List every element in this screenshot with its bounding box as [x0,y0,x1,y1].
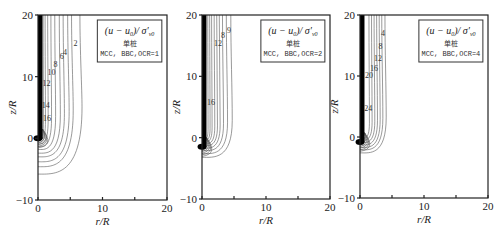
y-tick-label: 0 [192,132,198,144]
legend-line1: 单桩 [123,39,137,48]
y-axis-title: z/R [170,100,182,115]
y-tick-label: 20 [186,9,198,21]
contour-label: 12 [214,39,222,48]
legend-line1: 单桩 [444,39,458,48]
y-tick-label: 10 [186,70,198,82]
x-tick-label: 0 [199,201,205,213]
y-axis-title: z/R [6,100,18,115]
y-tick-label: −10 [338,192,356,204]
y-tick-label: −10 [180,193,198,205]
legend-box: (u − u0)/ σ′v0单桩MCC, BBC,OCR=4 [419,20,483,62]
x-tick-label: 20 [325,201,337,213]
contour-figure: 01020−1001020r/Rz/R246810121416(u − u0)/… [0,0,498,234]
legend-line1: 单桩 [286,39,300,48]
contour-label: 6 [60,52,64,61]
y-tick-label: 0 [28,132,34,144]
contour-label: 14 [42,101,50,110]
legend-formula: (u − u0)/ σ′v0 [268,25,317,37]
x-tick-label: 10 [261,201,273,213]
pile-shape [360,15,364,142]
contour-label: 4 [381,29,385,38]
x-axis-title: r/R [259,214,273,226]
x-tick-label: 10 [419,200,431,212]
y-tick-label: 20 [22,9,34,21]
contour-lines [202,15,232,157]
legend-formula: (u − u0)/ σ′v0 [105,25,154,37]
x-tick-label: 0 [35,202,41,214]
contour-label: 20 [365,71,373,80]
legend-line2: MCC, BBC,OCR=2 [263,50,322,58]
y-tick-label: 20 [344,9,356,21]
y-tick-label: 10 [22,71,34,83]
contour-label: 24 [364,104,372,113]
x-axis-title: r/R [417,213,431,225]
legend-line2: MCC, BBC,OCR=4 [421,50,480,58]
x-tick-label: 20 [483,200,495,212]
contour-label: 16 [207,98,215,107]
y-tick-label: −10 [16,194,34,206]
y-axis-title: z/R [328,99,340,114]
legend-box: (u − u0)/ σ′v0单桩MCC, BBC,OCR=2 [261,20,325,62]
contour-label: 2 [73,39,77,48]
x-tick-label: 0 [357,200,363,212]
contour-label: 10 [48,68,56,77]
contour-label: 16 [43,114,51,123]
contour-line [38,15,69,162]
legend-box: (u − u0)/ σ′v0单桩MCC, BBC,OCR=1 [97,20,162,62]
contour-label: 12 [374,54,382,63]
pile-shape [202,15,206,147]
legend-line2: MCC, BBC,OCR=1 [100,50,159,58]
y-tick-label: 10 [344,70,356,82]
chart-panel-b: 01020−1001020r/Rz/R981216(u − u0)/ σ′v0单… [170,9,336,226]
x-tick-label: 10 [97,202,109,214]
pile-shape [38,15,43,138]
chart-panel-c: 01020−1001020r/Rz/R4812162024(u − u0)/ σ… [328,9,494,225]
contour-label: 9 [227,26,231,35]
x-tick-label: 20 [162,202,174,214]
chart-panel-a: 01020−1001020r/Rz/R246810121416(u − u0)/… [6,9,173,227]
contour-label: 12 [42,79,50,88]
legend-formula: (u − u0)/ σ′v0 [426,25,475,37]
x-axis-title: r/R [95,215,109,227]
contour-label: 8 [378,42,382,51]
y-tick-label: 0 [350,131,356,143]
